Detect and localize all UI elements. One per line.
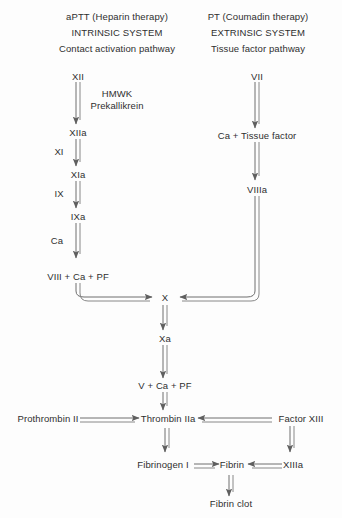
header-intrinsic-system: INTRINSIC SYSTEM [72,27,163,38]
arrow-prothrombin-to-thrombin [80,418,139,422]
node-fibrin: Fibrin [220,459,244,470]
arrow-factor-xiii-to-xiiia [290,426,294,452]
cofactor-hmwk: HMWK [102,88,132,99]
cofactor-prekallikrein: Prekallikrein [90,100,143,111]
node-thrombin-iia: Thrombin IIa [141,413,196,424]
side-label-ca: Ca [51,235,63,246]
node-factor-ixa: IXa [71,211,86,222]
arrow-ca-tissue-factor-to-viiia [255,142,259,180]
node-factor-xia: XIa [71,169,86,180]
arrow-fibrin-to-fibrin-clot [229,475,233,496]
node-factor-xiii: Factor XIII [279,413,324,424]
header-pt-test: PT (Coumadin therapy) [208,11,309,22]
node-factor-xiiia: XIIIa [283,459,303,470]
arrow-xia-to-ixa [76,181,80,208]
node-factor-xiia: XIIa [69,127,86,138]
header-contact-activation-pathway: Contact activation pathway [59,43,175,54]
node-factor-xa: Xa [159,333,171,344]
arrow-xa-to-v-complex [163,345,167,378]
node-prothrombin-ii: Prothrombin II [17,413,78,424]
header-tissue-factor-pathway: Tissue factor pathway [211,43,305,54]
arrow-xiia-to-xia [76,139,80,166]
arrow-factor-xiii-to-thrombin [198,418,272,422]
header-aptt-test: aPTT (Heparin therapy) [66,11,168,22]
arrow-vii-to-ca-tissue-factor [255,82,259,128]
arrow-xiiia-to-fibrin [248,464,282,468]
arrow-ixa-to-viii-complex [76,223,80,258]
node-factor-viiia: VIIIa [247,184,267,195]
arrow-thrombin-to-fibrinogen [165,428,169,452]
node-fibrin-clot: Fibrin clot [210,498,252,509]
node-factor-xii: XII [72,71,84,82]
header-extrinsic-system: EXTRINSIC SYSTEM [211,27,305,38]
connector-extrinsic-to-x [180,196,259,301]
arrow-xii-to-xiia [76,82,80,124]
side-label-factor-xi: XI [54,146,63,157]
cascade-connector-layer [0,0,342,518]
node-v-ca-pf-complex: V + Ca + PF [138,380,191,391]
arrow-v-complex-to-thrombin [163,392,167,410]
side-label-factor-ix: IX [54,188,63,199]
arrow-fibrinogen-to-fibrin [194,464,219,468]
connector-intrinsic-to-x [76,283,152,301]
node-factor-vii: VII [251,71,263,82]
node-viii-ca-pf-complex: VIII + Ca + PF [47,271,109,282]
node-factor-x: X [162,292,168,303]
arrow-x-to-xa [163,305,167,330]
node-fibrinogen-i: Fibrinogen I [137,459,188,470]
node-ca-tissue-factor: Ca + Tissue factor [218,130,297,141]
